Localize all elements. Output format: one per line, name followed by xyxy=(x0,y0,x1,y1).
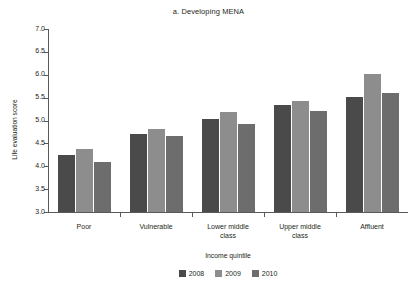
y-tick-label: 3.5 xyxy=(23,185,45,192)
legend-item-2009[interactable]: 2009 xyxy=(215,270,241,277)
legend-item-2010[interactable]: 2010 xyxy=(252,270,278,277)
bar-2010-upper-middle-class[interactable] xyxy=(310,111,327,212)
bar-2008-affluent[interactable] xyxy=(346,97,363,212)
legend-swatch-icon xyxy=(179,270,186,277)
legend-label: 2010 xyxy=(262,270,278,277)
bar-2010-poor[interactable] xyxy=(94,162,111,212)
y-tick-label: 4.0 xyxy=(23,162,45,169)
x-category-label: Vulnerable xyxy=(120,222,192,231)
bar-2010-vulnerable[interactable] xyxy=(166,136,183,212)
chart-figure: a. Developing MENA Life evaluation score… xyxy=(0,0,417,295)
bar-2009-upper-middle-class[interactable] xyxy=(292,101,309,212)
x-axis-line xyxy=(48,212,408,213)
legend-swatch-icon xyxy=(252,270,259,277)
x-category-label: Upper middleclass xyxy=(264,222,336,240)
x-axis-title: Income quintile xyxy=(48,252,408,259)
x-tick-mark xyxy=(264,213,265,217)
bar-2010-lower-middle-class[interactable] xyxy=(238,124,255,212)
bar-group xyxy=(346,29,399,212)
x-category-label: Lower middleclass xyxy=(192,222,264,240)
y-axis-title: Life evaluation score xyxy=(11,75,18,185)
x-tick-mark xyxy=(192,213,193,217)
legend-label: 2009 xyxy=(225,270,241,277)
x-category-label: Poor xyxy=(48,222,120,231)
x-tick-mark xyxy=(120,213,121,217)
bar-group xyxy=(58,29,111,212)
chart-legend: 200820092010 xyxy=(48,270,408,277)
y-axis-line xyxy=(48,29,49,213)
y-tick-label: 4.5 xyxy=(23,139,45,146)
bar-2008-upper-middle-class[interactable] xyxy=(274,105,291,212)
bar-2009-poor[interactable] xyxy=(76,149,93,212)
x-tick-mark xyxy=(336,213,337,217)
bar-2009-affluent[interactable] xyxy=(364,74,381,212)
bar-2008-vulnerable[interactable] xyxy=(130,134,147,212)
bar-2009-lower-middle-class[interactable] xyxy=(220,112,237,212)
bar-2009-vulnerable[interactable] xyxy=(148,129,165,212)
y-tick-label: 6.0 xyxy=(23,70,45,77)
bar-group xyxy=(202,29,255,212)
bar-2010-affluent[interactable] xyxy=(382,93,399,212)
y-tick-label: 7.0 xyxy=(23,25,45,32)
y-tick-label: 6.5 xyxy=(23,47,45,54)
legend-label: 2008 xyxy=(189,270,205,277)
legend-swatch-icon xyxy=(215,270,222,277)
bar-2008-poor[interactable] xyxy=(58,155,75,212)
x-category-label: Affluent xyxy=(336,222,408,231)
plot-area: 7.06.56.05.55.04.54.03.53.0 xyxy=(48,29,408,213)
y-tick-label: 5.0 xyxy=(23,116,45,123)
chart-title: a. Developing MENA xyxy=(0,7,417,16)
y-tick-label: 5.5 xyxy=(23,93,45,100)
bar-group xyxy=(274,29,327,212)
legend-item-2008[interactable]: 2008 xyxy=(179,270,205,277)
y-tick-label: 3.0 xyxy=(23,208,45,215)
bar-2008-lower-middle-class[interactable] xyxy=(202,119,219,212)
bar-group xyxy=(130,29,183,212)
